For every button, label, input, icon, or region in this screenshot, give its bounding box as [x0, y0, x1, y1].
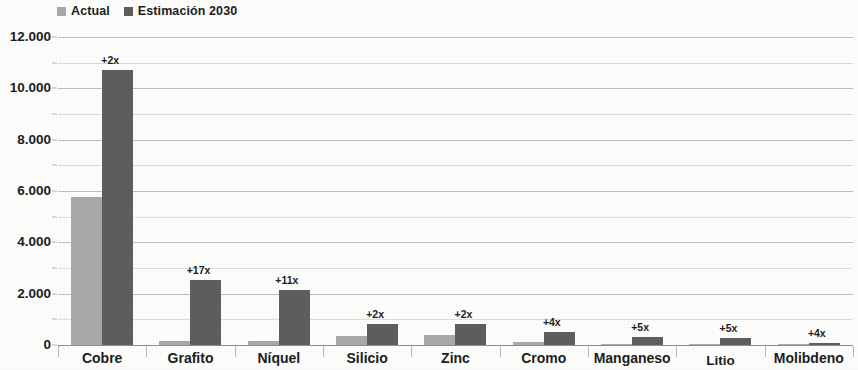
y-axis-tick-mark	[52, 191, 57, 192]
x-axis-label-zinc: Zinc	[411, 349, 499, 370]
bar-estimacion-2030	[632, 337, 663, 345]
x-axis-labels: CobreGrafitoNíquelSilicioZincCromoMangan…	[58, 349, 853, 370]
bar-pair	[336, 37, 398, 345]
y-axis-tick-mark	[52, 345, 57, 346]
bar-group: +4x	[765, 37, 853, 345]
x-axis-label-manganeso: Manganeso	[588, 349, 676, 370]
bar-group: +2x	[411, 37, 499, 345]
y-axis-tick-mark	[52, 216, 57, 217]
bar-value-annotation: +17x	[187, 265, 211, 276]
x-axis-separator	[853, 346, 854, 357]
y-axis-tick-label: 2.000	[17, 287, 51, 301]
y-axis-tick-label: 10.000	[10, 82, 51, 96]
y-axis-tick-mark	[52, 242, 57, 243]
bar-pair	[248, 37, 310, 345]
bar-value-annotation: +2x	[366, 309, 384, 320]
y-axis-tick-mark	[52, 268, 57, 269]
bar-estimacion-2030	[367, 324, 398, 345]
bar-value-annotation: +2x	[101, 55, 119, 66]
y-axis-tick-mark	[52, 114, 57, 115]
bar-value-annotation: +11x	[275, 275, 298, 286]
legend-swatch-icon	[124, 7, 133, 16]
bar-group: +4x	[500, 37, 588, 345]
legend-item-actual: Actual	[57, 5, 110, 18]
bar-pair	[424, 37, 486, 345]
bar-estimacion-2030	[279, 290, 310, 345]
x-axis-label-silicio: Silicio	[323, 349, 411, 370]
legend-label-actual: Actual	[71, 5, 110, 18]
bar-value-annotation: +5x	[720, 323, 738, 334]
bar-pair	[159, 37, 221, 345]
bar-group: +2x	[58, 37, 146, 345]
bar-actual	[71, 197, 102, 345]
y-axis-tick-label: 0	[43, 338, 51, 352]
y-axis-tick-mark	[52, 37, 57, 38]
bar-estimacion-2030	[720, 338, 751, 345]
bar-value-annotation: +2x	[455, 309, 473, 320]
y-axis-tick-label: 4.000	[17, 236, 51, 250]
bar-group: +2x	[323, 37, 411, 345]
y-axis-tick-mark	[52, 88, 57, 89]
bar-group: +11x	[235, 37, 323, 345]
bar-value-annotation: +4x	[808, 328, 826, 339]
x-axis-label-grafito: Grafito	[146, 349, 234, 370]
y-axis-tick-label: 12.000	[10, 30, 51, 44]
bar-pair	[71, 37, 133, 345]
bar-group: +5x	[676, 37, 764, 345]
y-axis-tick-mark	[52, 139, 57, 140]
bar-groups: +2x+17x+11x+2x+2x+4x+5x+5x+4x	[58, 37, 853, 345]
bar-estimacion-2030	[544, 332, 575, 345]
bar-actual	[424, 335, 455, 345]
x-axis-label-molibdeno: Molibdeno	[765, 349, 853, 370]
chart-legend: Actual Estimación 2030	[57, 2, 237, 20]
bar-group: +17x	[146, 37, 234, 345]
x-axis-label-cromo: Cromo	[500, 349, 588, 370]
bar-estimacion-2030	[455, 324, 486, 345]
x-axis-label-nquel: Níquel	[235, 349, 323, 370]
y-axis-tick-label: 8.000	[17, 133, 51, 147]
y-axis-tick-mark	[52, 319, 57, 320]
y-axis-tick-mark	[52, 293, 57, 294]
bar-actual	[336, 336, 367, 345]
y-axis-tick-mark	[52, 165, 57, 166]
bar-group: +5x	[588, 37, 676, 345]
bar-value-annotation: +4x	[543, 317, 561, 328]
bar-pair	[689, 37, 751, 345]
y-axis-tick-label: 6.000	[17, 184, 51, 198]
bar-estimacion-2030	[102, 70, 133, 345]
bar-pair	[601, 37, 663, 345]
bar-chart: Actual Estimación 2030 02.0004.0006.0008…	[0, 0, 858, 370]
x-axis-label-litio: Litio	[676, 349, 764, 370]
y-axis-tick-mark	[52, 62, 57, 63]
legend-item-estimacion-2030: Estimación 2030	[124, 5, 237, 18]
legend-swatch-icon	[57, 7, 66, 16]
bar-value-annotation: +5x	[631, 322, 649, 333]
bar-pair	[513, 37, 575, 345]
x-axis-label-cobre: Cobre	[58, 349, 146, 370]
bar-pair	[778, 37, 840, 345]
legend-label-estimacion-2030: Estimación 2030	[138, 5, 237, 18]
bar-estimacion-2030	[190, 280, 221, 345]
